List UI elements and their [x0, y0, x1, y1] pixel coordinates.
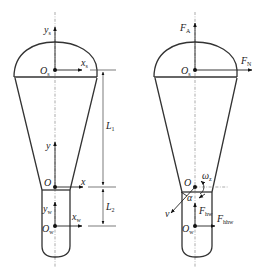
left-yw-label: yw: [42, 203, 52, 215]
dim-L1-label: L1: [105, 120, 115, 132]
right-figure: FA FN Os O ωz α v Fhw Fhhw Ow: [154, 12, 252, 268]
right-O-label: O: [184, 177, 191, 188]
left-y-label: y: [45, 140, 51, 151]
left-O-label: O: [44, 177, 51, 188]
dim-L2-label: L2: [105, 201, 115, 213]
left-ys-label: ys: [43, 24, 51, 36]
left-Ow-point: [53, 224, 57, 228]
right-taper-outline: [155, 78, 237, 192]
left-figure: ys xs Os y x O yw xw Ow L1 L2: [14, 12, 116, 268]
Fhhw-label: Fhhw: [216, 213, 234, 225]
FN-label: FN: [240, 55, 252, 67]
alpha-arrow: [199, 194, 205, 198]
left-Ow-label: Ow: [42, 223, 54, 235]
Fhw-label: Fhw: [198, 205, 213, 217]
right-Os-point: [193, 68, 197, 72]
left-xw-label: xw: [71, 211, 81, 223]
left-xs-label: xs: [80, 57, 88, 69]
right-Ow-label: Ow: [182, 223, 194, 235]
left-O-point: [53, 185, 57, 189]
right-Ow-point: [193, 224, 197, 228]
vehicle-diagram: ys xs Os y x O yw xw Ow L1 L2: [0, 0, 266, 273]
left-taper-outline: [15, 78, 97, 190]
right-Os-label: Os: [181, 65, 191, 77]
FA-label: FA: [179, 22, 191, 34]
velocity-label: v: [165, 208, 170, 219]
left-Os-point: [53, 68, 57, 72]
alpha-label: α: [187, 192, 193, 203]
left-Os-label: Os: [40, 65, 50, 77]
left-x-label: x: [80, 176, 86, 187]
omega-label: ωz: [202, 170, 212, 182]
